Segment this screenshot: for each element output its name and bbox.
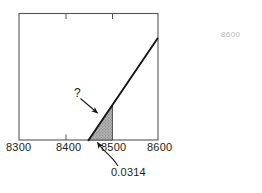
x-tick-label-8400: 8400 bbox=[56, 141, 81, 153]
side-note-label: 8600 bbox=[221, 30, 240, 39]
x-tick-label-8300: 8300 bbox=[6, 141, 31, 153]
x-tick-label-8600: 8600 bbox=[147, 141, 172, 153]
plot-frame bbox=[19, 14, 158, 141]
question-arrow bbox=[81, 99, 98, 114]
plot-border bbox=[19, 14, 158, 141]
question-arrow-line bbox=[81, 99, 98, 114]
area-value-label: 0.0314 bbox=[111, 166, 146, 178]
x-tick-label-8500: 8500 bbox=[101, 141, 126, 153]
question-mark-label: ? bbox=[74, 86, 81, 100]
line-series-path bbox=[89, 39, 158, 141]
density-line bbox=[89, 39, 158, 141]
probability-density-chart bbox=[0, 0, 262, 193]
